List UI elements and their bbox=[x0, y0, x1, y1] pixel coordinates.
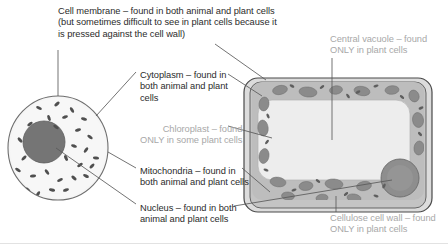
label-cytoplasm: Cytoplasm – found in both animal and pla… bbox=[140, 70, 228, 104]
plant-cell bbox=[244, 78, 432, 212]
label-chloroplast: Chloroplast – found ONLY in some plant c… bbox=[140, 124, 242, 147]
label-mitochondria: Mitochondria – found in both animal and … bbox=[140, 166, 249, 189]
label-central-vacuole: Central vacuole – found ONLY in plant ce… bbox=[330, 34, 427, 57]
leader-cytoplasm-animal bbox=[96, 72, 136, 116]
plant-cell-nucleolus bbox=[387, 165, 413, 191]
label-cellulose-cell-wall: Cellulose cell wall – found ONLY in plan… bbox=[330, 213, 436, 236]
leader-mitochondria-animal bbox=[108, 152, 136, 168]
label-cell-membrane: Cell membrane – found in both animal and… bbox=[58, 6, 277, 40]
plant-cell-cytoplasm bbox=[244, 78, 432, 212]
label-nucleus: Nucleus – found in both animal and plant… bbox=[140, 203, 237, 226]
animal-cell-nucleus bbox=[23, 121, 65, 163]
animal-cell bbox=[8, 96, 108, 200]
cell-diagram-figure: Cell membrane – found in both animal and… bbox=[0, 0, 448, 244]
